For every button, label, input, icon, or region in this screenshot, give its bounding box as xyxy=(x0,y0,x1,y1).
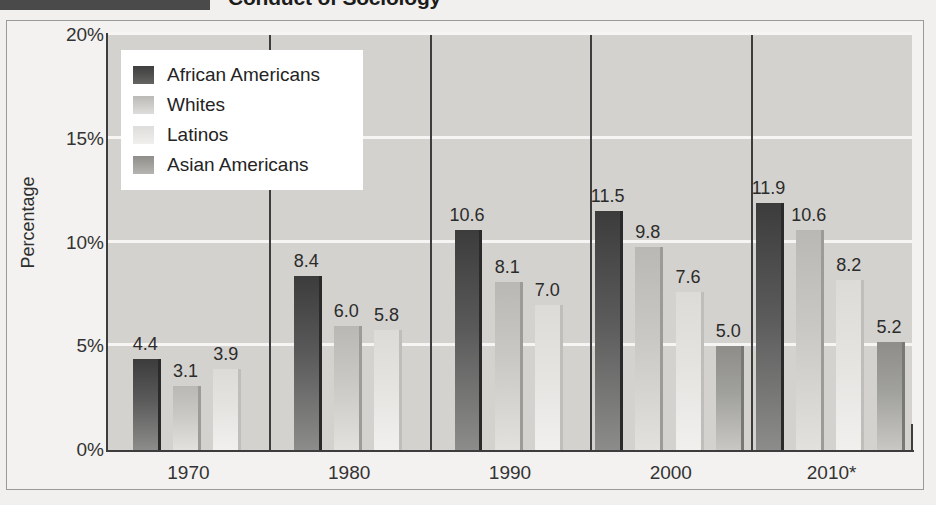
bar xyxy=(836,280,861,450)
bar-body xyxy=(173,386,198,450)
x-tick-label: 1990 xyxy=(489,462,531,484)
bar-body xyxy=(294,276,319,450)
bar-value-label: 8.1 xyxy=(495,257,520,278)
bar-value-label: 8.4 xyxy=(294,251,319,272)
bar-value-label: 7.0 xyxy=(535,280,560,301)
page-header-strip: Conduct of Sociology xyxy=(0,0,936,13)
bar-edge xyxy=(741,346,744,450)
legend-label: Latinos xyxy=(167,124,228,146)
y-axis-title: Percentage xyxy=(18,133,39,313)
bar-body xyxy=(635,247,660,450)
y-axis-line xyxy=(106,33,108,452)
legend-swatch-icon xyxy=(133,96,154,114)
chart-legend: African AmericansWhitesLatinosAsian Amer… xyxy=(121,50,363,190)
bar xyxy=(213,369,238,450)
bar-body xyxy=(133,359,158,450)
bar xyxy=(595,211,620,450)
bar-body xyxy=(676,292,701,450)
x-tick-label: 2010* xyxy=(807,462,857,484)
bar xyxy=(756,203,781,450)
x-tick-label: 1970 xyxy=(167,462,209,484)
bar-value-label: 4.4 xyxy=(133,334,158,355)
group-separator xyxy=(751,35,753,450)
bar-value-label: 5.0 xyxy=(716,321,741,342)
bar-edge xyxy=(158,359,161,450)
bar-edge xyxy=(660,247,663,450)
bar xyxy=(374,330,399,450)
bar xyxy=(716,346,741,450)
bar-edge xyxy=(198,386,201,450)
y-tick-label: 5% xyxy=(8,335,104,357)
bar-edge xyxy=(479,230,482,450)
right-axis-tick xyxy=(911,424,913,451)
legend-label: African Americans xyxy=(167,64,320,86)
bar-value-label: 5.2 xyxy=(877,317,902,338)
bar-body xyxy=(877,342,902,450)
bar-body xyxy=(374,330,399,450)
bar-body xyxy=(756,203,781,450)
bar-value-label: 7.6 xyxy=(676,267,701,288)
bar-edge xyxy=(359,326,362,451)
legend-item: Asian Americans xyxy=(133,150,351,180)
legend-swatch-icon xyxy=(133,156,154,174)
bar xyxy=(495,282,520,450)
bar xyxy=(535,305,560,450)
bar-edge xyxy=(701,292,704,450)
legend-item: Whites xyxy=(133,90,351,120)
bar-edge xyxy=(821,230,824,450)
bar-value-label: 11.5 xyxy=(591,186,625,207)
bar-body xyxy=(595,211,620,450)
bar-body xyxy=(495,282,520,450)
y-tick-label: 0% xyxy=(8,439,104,461)
bar xyxy=(676,292,701,450)
bar-value-label: 11.9 xyxy=(752,178,786,199)
bar xyxy=(877,342,902,450)
gridline xyxy=(108,240,912,243)
x-tick-label: 2000 xyxy=(650,462,692,484)
bar-edge xyxy=(238,369,241,450)
page-title: Conduct of Sociology xyxy=(228,0,441,10)
x-axis-line xyxy=(106,450,914,452)
bar-body xyxy=(455,230,480,450)
bar-body xyxy=(535,305,560,450)
bar xyxy=(133,359,158,450)
bar-edge xyxy=(861,280,864,450)
legend-item: Latinos xyxy=(133,120,351,150)
bar xyxy=(796,230,821,450)
bar-edge xyxy=(902,342,905,450)
bar-value-label: 8.2 xyxy=(836,255,861,276)
legend-item: African Americans xyxy=(133,60,351,90)
bar xyxy=(635,247,660,450)
group-separator xyxy=(590,35,592,450)
bar-value-label: 9.8 xyxy=(635,222,660,243)
bar xyxy=(173,386,198,450)
bar-edge xyxy=(620,211,623,450)
bar-body xyxy=(213,369,238,450)
legend-swatch-icon xyxy=(133,66,154,84)
bar-body xyxy=(836,280,861,450)
bar xyxy=(334,326,359,451)
y-tick-label: 20% xyxy=(8,24,104,46)
y-tick-labels: 0%5%10%15%20% xyxy=(0,0,104,505)
bar-value-label: 3.9 xyxy=(213,344,238,365)
bar xyxy=(455,230,480,450)
bar-body xyxy=(334,326,359,451)
legend-label: Whites xyxy=(167,94,225,116)
chart-figure: Conduct of Sociology 4.43.13.98.46.05.81… xyxy=(0,0,936,505)
bar-edge xyxy=(319,276,322,450)
bar-edge xyxy=(560,305,563,450)
bar-edge xyxy=(399,330,402,450)
x-tick-label: 1980 xyxy=(328,462,370,484)
legend-label: Asian Americans xyxy=(167,154,309,176)
bar-value-label: 6.0 xyxy=(334,301,359,322)
bar-value-label: 3.1 xyxy=(173,361,198,382)
legend-swatch-icon xyxy=(133,126,154,144)
bar-body xyxy=(796,230,821,450)
bar-value-label: 10.6 xyxy=(449,205,484,226)
bar-edge xyxy=(781,203,784,450)
group-separator xyxy=(430,35,432,450)
bar-body xyxy=(716,346,741,450)
bar xyxy=(294,276,319,450)
bar-edge xyxy=(520,282,523,450)
bar-value-label: 10.6 xyxy=(791,205,826,226)
